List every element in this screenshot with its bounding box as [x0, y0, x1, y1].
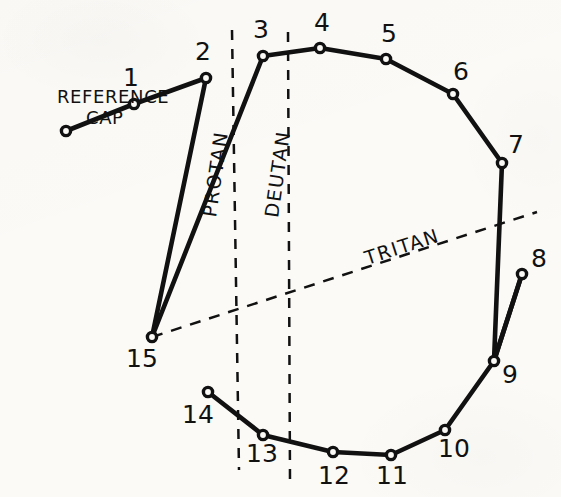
- cap-marker-5[interactable]: [381, 54, 390, 63]
- reference-cap-label-line2: CAP: [86, 107, 124, 128]
- confusion-axis-deutan: [288, 32, 290, 480]
- cap-marker-3[interactable]: [258, 51, 267, 60]
- cap-number-label-3: 3: [253, 15, 269, 44]
- cap-marker-15[interactable]: [147, 332, 156, 341]
- cap-number-label-15: 15: [126, 344, 158, 373]
- d15-plot-page: 123456789101112131415 PROTANDEUTANTRITAN…: [0, 0, 561, 497]
- cap-marker-6[interactable]: [448, 89, 457, 98]
- d15-plot-svg: 123456789101112131415 PROTANDEUTANTRITAN…: [0, 0, 561, 497]
- cap-number-label-2: 2: [195, 37, 211, 66]
- reference-cap-label-group: REFERENCECAP: [57, 86, 169, 128]
- confusion-axis-protan: [232, 30, 239, 470]
- cap-number-label-7: 7: [508, 130, 524, 159]
- reference-cap-label-line1: REFERENCE: [57, 86, 169, 107]
- cap-number-label-6: 6: [453, 57, 469, 86]
- cap-number-label-14: 14: [182, 400, 214, 429]
- cap-segment-10-to-11: [391, 430, 445, 455]
- cap-number-label-13: 13: [246, 439, 278, 468]
- cap-marker-9[interactable]: [489, 356, 498, 365]
- cap-segment-3-to-4: [263, 48, 320, 56]
- confusion-axis-label-tritan: TRITAN: [361, 224, 442, 269]
- cap-number-label-8: 8: [531, 244, 547, 273]
- cap-marker-4[interactable]: [315, 43, 324, 52]
- cap-segment-2-to-15: [152, 78, 206, 337]
- cap-marker-8[interactable]: [517, 269, 526, 278]
- cap-number-label-10: 10: [438, 434, 470, 463]
- cap-marker-2[interactable]: [201, 73, 210, 82]
- cap-number-label-4: 4: [314, 8, 330, 37]
- cap-marker-12[interactable]: [328, 447, 337, 456]
- cap-marker-7[interactable]: [497, 158, 506, 167]
- cap-number-label-9: 9: [502, 360, 518, 389]
- confusion-axis-label-protan: PROTAN: [198, 130, 232, 219]
- cap-segment-13-to-14: [208, 392, 263, 435]
- confusion-axis-tritan: [152, 212, 537, 337]
- cap-segment-9-to-10: [445, 361, 494, 430]
- cap-number-label-12: 12: [318, 461, 350, 490]
- cap-number-label-5: 5: [381, 19, 397, 48]
- cap-marker-reference[interactable]: [61, 126, 70, 135]
- cap-segment-4-to-5: [320, 48, 386, 59]
- cap-marker-11[interactable]: [386, 450, 395, 459]
- cap-segment-7-to-9: [494, 163, 502, 361]
- cap-segment-6-to-7: [453, 94, 502, 163]
- cap-segment-11-to-12: [333, 452, 391, 455]
- cap-number-label-11: 11: [376, 461, 408, 490]
- cap-marker-14[interactable]: [203, 387, 212, 396]
- cap-segment-5-to-6: [386, 59, 453, 94]
